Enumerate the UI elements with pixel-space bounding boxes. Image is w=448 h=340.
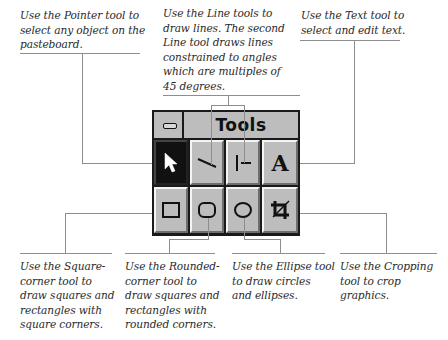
caption-line: draw squares and — [20, 288, 114, 303]
caption-line: Use the Text tool to — [301, 8, 405, 23]
leader-rule-text — [300, 40, 400, 41]
leader-rule-rounded — [125, 253, 215, 254]
leader-line-ellipse — [244, 218, 245, 239]
leader-line-text — [354, 40, 355, 163]
caption-line: Line tool draws lines — [163, 35, 285, 50]
minus-icon — [163, 123, 177, 129]
square-corner-tool-button[interactable] — [154, 187, 188, 233]
rounded-rect-icon — [197, 201, 217, 219]
caption-line: corner tool to — [20, 274, 114, 289]
caption-line: square corners. — [20, 317, 114, 332]
pointer-tool-button[interactable] — [154, 140, 188, 185]
caption-line: constrained to angles — [163, 50, 285, 65]
leader-line-line — [211, 105, 245, 106]
caption-line: Use the Square- — [20, 259, 114, 274]
text-a-icon: A — [271, 152, 288, 174]
constrained-line-tool-button[interactable] — [226, 140, 260, 185]
caption-line: draw lines. The second — [163, 21, 285, 36]
leader-line-pointer — [82, 53, 83, 163]
callout-rounded-tool: Use the Rounded- corner tool to draw squ… — [125, 259, 220, 332]
leader-line-line — [211, 105, 212, 165]
caption-line: to draw circles — [232, 274, 335, 289]
caption-line: draw squares and — [125, 288, 220, 303]
cropping-tool-button[interactable] — [262, 187, 298, 233]
leader-rule-crop — [340, 253, 437, 254]
callout-line-tools: Use the Line tools to draw lines. The se… — [163, 6, 285, 94]
caption-line: which are multiples of — [163, 64, 285, 79]
diagonal-line-icon — [196, 156, 218, 170]
callout-pointer: Use the Pointer tool to select any objec… — [20, 8, 145, 52]
caption-line: and ellipses. — [232, 288, 335, 303]
leader-rule-pointer — [20, 53, 140, 54]
caption-line: Use the Pointer tool to — [20, 8, 145, 23]
caption-line: 45 degrees. — [163, 79, 285, 94]
square-icon — [161, 201, 181, 219]
ellipse-tool-button[interactable] — [226, 187, 260, 233]
leader-line-ellipse — [280, 239, 281, 253]
caption-line: pasteboard. — [20, 37, 145, 52]
caption-line: tool to crop — [340, 274, 433, 289]
caption-line: Use the Cropping — [340, 259, 433, 274]
leader-line-crop — [290, 213, 387, 214]
tools-palette: Tools A — [152, 110, 300, 236]
caption-line: rectangles with — [125, 303, 220, 318]
caption-line: rounded corners. — [125, 317, 220, 332]
leader-line-line — [228, 95, 229, 105]
leader-line-line — [244, 105, 245, 163]
leader-line-rounded — [208, 218, 209, 239]
line-tool-button[interactable] — [190, 140, 224, 185]
palette-title-bar[interactable]: Tools — [154, 112, 298, 138]
rounded-corner-tool-button[interactable] — [190, 187, 224, 233]
caption-line: corner tool to — [125, 274, 220, 289]
leader-line-crop — [386, 213, 387, 253]
leader-line-square — [65, 213, 165, 214]
callout-square-tool: Use the Square- corner tool to draw squa… — [20, 259, 114, 332]
leader-line-ellipse — [244, 239, 281, 240]
caption-line: select any object on the — [20, 23, 145, 38]
text-tool-button[interactable]: A — [262, 140, 298, 185]
leader-line-pointer — [82, 163, 156, 164]
callout-crop-tool: Use the Cropping tool to crop graphics. — [340, 259, 433, 303]
caption-line: Use the Rounded- — [125, 259, 220, 274]
palette-title: Tools — [184, 112, 298, 138]
caption-line: Use the Ellipse tool — [232, 259, 335, 274]
control-menu-box[interactable] — [154, 112, 184, 138]
caption-line: Use the Line tools to — [163, 6, 285, 21]
caption-line: graphics. — [340, 288, 433, 303]
crop-icon — [269, 199, 291, 221]
caption-line: rectangles with — [20, 303, 114, 318]
arrow-pointer-icon — [163, 152, 179, 174]
leader-rule-square — [20, 253, 112, 254]
leader-line-rounded — [169, 239, 209, 240]
callout-text-tool: Use the Text tool to select and edit tex… — [301, 8, 405, 37]
callout-ellipse-tool: Use the Ellipse tool to draw circles and… — [232, 259, 335, 303]
leader-rule-line — [163, 95, 300, 96]
caption-line: select and edit text. — [301, 23, 405, 38]
leader-rule-ellipse — [232, 253, 325, 254]
leader-line-rounded — [169, 239, 170, 253]
leader-line-square — [65, 213, 66, 253]
ellipse-icon — [233, 201, 253, 219]
constrained-line-icon — [232, 153, 254, 173]
